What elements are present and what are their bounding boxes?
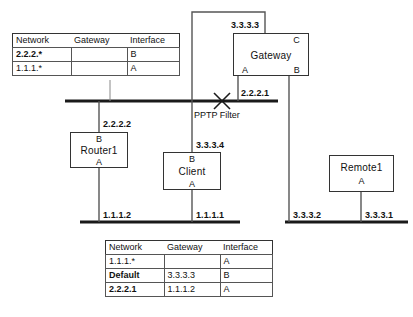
table-top-r0-gateway [71,48,127,62]
table-bottom-r1-network: Default [106,269,165,283]
table-top-r0-network: 2.2.2.* [13,48,72,62]
table-row: 2.2.2.* B [13,48,180,62]
router1-iface-b: B [96,134,102,144]
router1-label: Router1 [81,145,118,156]
addr-remote1-a: 3.3.3.1 [365,210,393,220]
addr-gateway-a-text: 2.2.2.1 [241,88,269,98]
addr-remote1-a-text: 3.3.3.1 [365,210,393,220]
table-top-header-gateway: Gateway [71,34,127,48]
table-bottom-r2-interface: A [220,283,273,297]
addr-gateway-b-text: 3.3.3.2 [293,210,321,220]
route-table-top: Network Gateway Interface 2.2.2.* B 1.1.… [12,33,180,76]
gateway-iface-c: C [293,35,300,45]
table-bottom-r0-gateway [164,255,220,269]
gateway-label: Gateway [251,50,292,61]
table-top-r0-interface: B [127,48,180,62]
addr-client-a: 1.1.1.1 [196,210,224,220]
remote1-label: Remote1 [341,162,383,173]
table-bottom-header-row: Network Gateway Interface [106,241,273,255]
addr-router1-a-text: 1.1.1.2 [103,210,131,220]
client-label: Client [179,166,206,177]
table-bottom-header-interface: Interface [220,241,273,255]
network-diagram: C Gateway A B B Router1 A B Client A Rem… [0,0,413,317]
table-bottom-r2-network: 2.2.2.1 [106,283,165,297]
node-router1: B Router1 A [70,132,128,168]
table-top-header-interface: Interface [127,34,180,48]
table-row: Default 3.3.3.3 B [106,269,273,283]
addr-client-b: 3.3.3.4 [196,140,224,150]
addr-router1-b: 2.2.2.2 [103,119,131,129]
table-top-header-row: Network Gateway Interface [13,34,180,48]
table-top-header-network: Network [13,34,72,48]
route-table-bottom: Network Gateway Interface 1.1.1.* A Defa… [105,240,273,297]
addr-client-b-text: 3.3.3.4 [196,140,224,150]
table-bottom-header-gateway: Gateway [164,241,220,255]
addr-gateway-b: 3.3.3.2 [293,210,321,220]
table-top-r1-gateway [71,62,127,76]
table-bottom-r2-gateway: 1.1.1.2 [164,283,220,297]
addr-router1-b-text: 2.2.2.2 [103,119,131,129]
remote1-iface-a: A [358,176,364,186]
gateway-iface-b: B [294,65,300,75]
client-iface-a: A [189,179,195,189]
addr-gateway-c-text: 3.3.3.3 [231,20,259,30]
table-top-r1-network: 1.1.1.* [13,62,72,76]
gateway-iface-a: A [242,65,248,75]
table-row: 1.1.1.* A [13,62,180,76]
node-client: B Client A [163,152,221,190]
router1-iface-a: A [96,157,102,167]
addr-gateway-a: 2.2.2.1 [241,88,269,98]
addr-client-a-text: 1.1.1.1 [196,210,224,220]
table-row: 2.2.2.1 1.1.1.2 A [106,283,273,297]
client-iface-b: B [189,154,195,164]
node-remote1: Remote1 A [329,155,394,192]
pptp-filter-label: PPTP Filter [194,110,240,120]
table-bottom-r1-gateway: 3.3.3.3 [164,269,220,283]
node-gateway: C Gateway A B [233,33,309,76]
addr-router1-a: 1.1.1.2 [103,210,131,220]
table-bottom-r0-interface: A [220,255,273,269]
table-bottom-r1-interface: B [220,269,273,283]
gateway-iface-row: A B [234,65,308,75]
table-row: 1.1.1.* A [106,255,273,269]
addr-gateway-c: 3.3.3.3 [231,20,259,30]
table-bottom-r0-network: 1.1.1.* [106,255,165,269]
table-bottom-header-network: Network [106,241,165,255]
table-top-r1-interface: A [127,62,180,76]
